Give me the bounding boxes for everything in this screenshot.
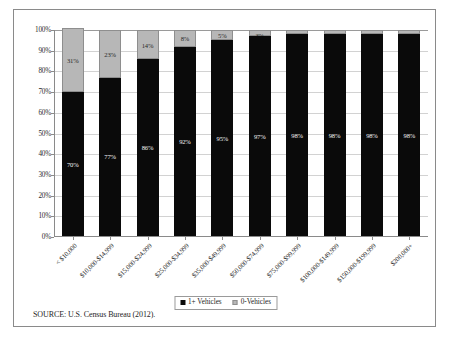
bar-segment-one-plus-vehicles[interactable]: 98% bbox=[324, 34, 346, 237]
y-axis-tick-label: 90% bbox=[17, 47, 51, 55]
y-axis-tick-label: 40% bbox=[17, 150, 51, 158]
y-axis-tick-label: 30% bbox=[17, 171, 51, 179]
bar-group[interactable]: 2%98% bbox=[324, 30, 346, 237]
bar-segment-zero-vehicles[interactable]: 5% bbox=[211, 30, 233, 40]
y-axis-tick-label: 100% bbox=[17, 26, 51, 34]
x-axis-tick-mark bbox=[409, 237, 410, 240]
legend-item[interactable]: 1+ Vehicles bbox=[180, 298, 222, 307]
x-axis-tick-label: $35,000-$49,999 bbox=[191, 242, 228, 279]
bar-value-label: 23% bbox=[100, 51, 120, 58]
y-axis-tick-label: 50% bbox=[17, 130, 51, 138]
y-axis-tick-label: 60% bbox=[17, 109, 51, 117]
bar-segment-one-plus-vehicles[interactable]: 98% bbox=[361, 34, 383, 237]
x-axis-tick: $200,000+ bbox=[369, 238, 449, 239]
y-axis-line bbox=[54, 30, 55, 237]
bar-segment-one-plus-vehicles[interactable]: 70% bbox=[62, 92, 84, 237]
y-axis-tick-label: 10% bbox=[17, 212, 51, 220]
x-axis-tick-labels: < $10,000$10,000-$14,999$15,000-$24,999$… bbox=[54, 238, 428, 296]
x-axis-tick-label: $200,000+ bbox=[389, 242, 415, 268]
x-axis-tick-label: $75,000-$99,999 bbox=[265, 242, 302, 279]
bar-value-label: 86% bbox=[137, 144, 159, 151]
bar-value-label: 95% bbox=[211, 135, 233, 142]
figure-frame: 0%10%20%30%40%50%60%70%80%90%100% 31%70%… bbox=[13, 9, 436, 327]
bar-segment-one-plus-vehicles[interactable]: 86% bbox=[137, 59, 159, 237]
bar-value-label: 98% bbox=[286, 132, 308, 139]
bar-segment-one-plus-vehicles[interactable]: 92% bbox=[174, 47, 196, 237]
bar-group[interactable]: 8%92% bbox=[174, 30, 196, 237]
bar-value-label: 98% bbox=[398, 132, 420, 139]
bar-group[interactable]: 23%77% bbox=[99, 30, 121, 237]
y-axis-tick-label: 0% bbox=[17, 233, 51, 241]
bar-group[interactable]: 14%86% bbox=[137, 30, 159, 237]
legend-swatch-icon bbox=[180, 300, 185, 305]
bar-group[interactable]: 5%95% bbox=[211, 30, 233, 237]
legend-label: 0-Vehicles bbox=[241, 298, 271, 307]
bar-segment-zero-vehicles[interactable]: 31% bbox=[62, 28, 84, 92]
bar-segment-zero-vehicles[interactable]: 23% bbox=[99, 30, 121, 78]
bar-segment-zero-vehicles[interactable]: 8% bbox=[174, 30, 196, 47]
x-axis-tick-label: < $10,000 bbox=[54, 242, 79, 267]
chart-legend: 1+ Vehicles0-Vehicles bbox=[174, 296, 277, 310]
bar-segment-one-plus-vehicles[interactable]: 98% bbox=[286, 34, 308, 237]
bar-value-label: 97% bbox=[249, 133, 271, 140]
bar-value-label: 5% bbox=[212, 32, 232, 39]
bar-segment-one-plus-vehicles[interactable]: 97% bbox=[249, 36, 271, 237]
bar-value-label: 14% bbox=[138, 42, 158, 49]
legend-item[interactable]: 0-Vehicles bbox=[233, 298, 271, 307]
chart-canvas: 0%10%20%30%40%50%60%70%80%90%100% 31%70%… bbox=[14, 10, 437, 300]
x-axis-tick-label: $15,000-$24,999 bbox=[116, 242, 153, 279]
x-axis-tick-label: $25,000-$34,999 bbox=[153, 242, 190, 279]
x-axis-tick-label: $50,000-$74,999 bbox=[228, 242, 265, 279]
bar-group[interactable]: 3%97% bbox=[249, 30, 271, 237]
x-axis-tick-label: $150,000-$199,999 bbox=[335, 242, 377, 284]
bar-group[interactable]: 2%98% bbox=[361, 30, 383, 237]
bar-value-label: 92% bbox=[174, 138, 196, 145]
plot-area: 31%70%23%77%14%86%8%92%5%95%3%97%2%98%2%… bbox=[54, 30, 428, 237]
bar-segment-one-plus-vehicles[interactable]: 77% bbox=[99, 78, 121, 237]
bar-value-label: 98% bbox=[361, 132, 383, 139]
y-axis-tick-labels: 0%10%20%30%40%50%60%70%80%90%100% bbox=[14, 30, 51, 237]
bar-segment-one-plus-vehicles[interactable]: 95% bbox=[211, 40, 233, 237]
bar-group[interactable]: 2%98% bbox=[286, 30, 308, 237]
y-axis-tick-label: 80% bbox=[17, 67, 51, 75]
y-axis-tick-label: 20% bbox=[17, 192, 51, 200]
x-axis-tick-label: $100,000-$149,999 bbox=[298, 242, 340, 284]
y-axis-tick-label: 70% bbox=[17, 88, 51, 96]
legend-swatch-icon bbox=[233, 300, 238, 305]
bar-value-label: 77% bbox=[99, 153, 121, 160]
bar-value-label: 98% bbox=[324, 132, 346, 139]
bar-segment-zero-vehicles[interactable]: 14% bbox=[137, 30, 159, 59]
source-note: SOURCE: U.S. Census Bureau (2012). bbox=[33, 310, 155, 320]
bar-value-label: 8% bbox=[175, 35, 195, 42]
bar-segment-one-plus-vehicles[interactable]: 98% bbox=[398, 34, 420, 237]
bar-group[interactable]: 2%98% bbox=[398, 30, 420, 237]
legend-label: 1+ Vehicles bbox=[188, 298, 222, 307]
bar-group[interactable]: 31%70% bbox=[62, 30, 84, 237]
bar-value-label: 70% bbox=[62, 161, 84, 168]
x-axis-tick-label: $10,000-$14,999 bbox=[78, 242, 115, 279]
bar-value-label: 31% bbox=[63, 57, 83, 64]
